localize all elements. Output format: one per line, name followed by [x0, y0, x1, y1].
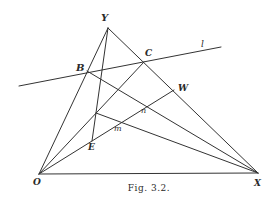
figure-caption: Fig. 3.2. [0, 183, 276, 193]
segment-Y-X [108, 28, 258, 173]
label-E: E [87, 142, 95, 152]
label-m: m [114, 124, 122, 133]
segment-O-X [39, 173, 258, 174]
label-l: l [201, 39, 204, 49]
label-W: W [178, 83, 189, 93]
segment-P-X [96, 113, 258, 173]
label-Y: Y [101, 12, 109, 23]
label-n: n [141, 106, 146, 115]
line-l [19, 47, 221, 86]
label-B: B [75, 62, 84, 73]
label-C: C [145, 48, 153, 58]
geometry-figure: Y B C l W n m E O X Fig. 3.2. [0, 0, 276, 202]
segment-B-X [87, 71, 258, 173]
diagram-canvas: Y B C l W n m E O X [0, 0, 276, 202]
